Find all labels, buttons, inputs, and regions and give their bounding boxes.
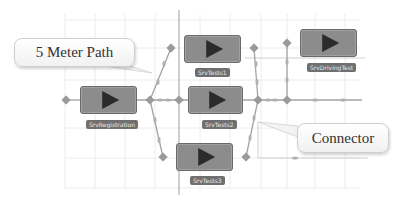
midpoint-handle[interactable] xyxy=(165,99,171,102)
node-label-srvtests3: SrvTests3 xyxy=(190,176,225,185)
node-srvregistration[interactable] xyxy=(80,86,137,114)
callout-connector: Connector xyxy=(297,123,389,153)
handle-diamond[interactable] xyxy=(250,44,258,52)
handle-diamond[interactable] xyxy=(283,96,291,104)
handle-diamond[interactable] xyxy=(159,153,167,161)
play-icon xyxy=(322,34,339,52)
play-icon xyxy=(102,91,119,109)
midpoint-handle[interactable] xyxy=(158,137,161,143)
midpoint-handle[interactable] xyxy=(340,99,346,102)
node-srvtests1[interactable] xyxy=(184,35,241,63)
midpoint-handle[interactable] xyxy=(249,135,252,141)
midpoint-handle[interactable] xyxy=(157,99,163,102)
midpoint-handle[interactable] xyxy=(272,99,278,102)
callout-tail-5-meter-path xyxy=(105,66,152,73)
midpoint-handle[interactable] xyxy=(265,99,271,102)
handle-diamond[interactable] xyxy=(175,96,183,104)
node-label-srvdrivingtest: SrvDrivingTest xyxy=(307,63,356,72)
midpoint-handle[interactable] xyxy=(312,99,318,102)
midpoint-handle[interactable] xyxy=(163,61,166,67)
node-srvtests3[interactable] xyxy=(176,143,233,171)
midpoint-handle[interactable] xyxy=(286,59,289,65)
midpoint-handle[interactable] xyxy=(253,115,256,121)
node-label-srvtests2: SrvTests2 xyxy=(202,120,237,129)
midpoint-handle[interactable] xyxy=(157,79,160,85)
callout-5-meter-path: 5 Meter Path xyxy=(14,38,135,67)
midpoint-handle[interactable] xyxy=(154,117,157,123)
callout-tail-connector xyxy=(258,122,298,137)
handle-diamond[interactable] xyxy=(146,96,154,104)
handle-diamond[interactable] xyxy=(242,153,250,161)
node-label-srvtests1: SrvTests1 xyxy=(195,68,230,77)
midpoint-handle[interactable] xyxy=(292,157,298,160)
play-icon xyxy=(206,40,223,58)
node-label-srvregistration: SrvRegistration xyxy=(86,120,138,129)
midpoint-handle[interactable] xyxy=(255,61,258,67)
node-srvdrivingtest[interactable] xyxy=(300,29,357,57)
midpoint-handle[interactable] xyxy=(256,79,259,85)
handle-diamond[interactable] xyxy=(283,39,291,47)
midpoint-handle[interactable] xyxy=(286,77,289,83)
play-icon xyxy=(209,91,226,109)
handle-diamond[interactable] xyxy=(167,44,175,52)
play-icon xyxy=(198,148,215,166)
handle-diamond[interactable] xyxy=(62,96,70,104)
node-srvtests2[interactable] xyxy=(188,86,243,114)
